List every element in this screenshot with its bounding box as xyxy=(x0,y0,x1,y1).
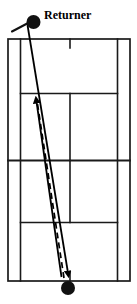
court-svg xyxy=(0,0,137,304)
tennis-court-diagram: Returner xyxy=(0,0,137,304)
returner-label: Returner xyxy=(44,9,91,22)
court-lines xyxy=(8,39,130,281)
server-marker-icon xyxy=(61,281,75,295)
serve-path-line xyxy=(28,25,69,276)
trajectory-group xyxy=(28,25,69,278)
returner-marker-icon xyxy=(27,15,41,29)
